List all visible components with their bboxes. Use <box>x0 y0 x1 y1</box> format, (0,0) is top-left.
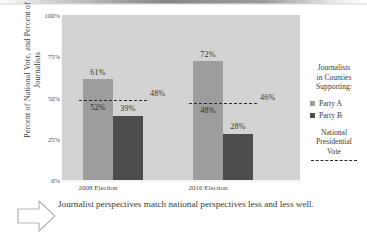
legend-reference-line-3: Vote <box>303 147 365 157</box>
plot-area: 61% 52% 48% 39% 72% 48% 46% 28% <box>62 15 300 180</box>
legend-item-party-b: Party B <box>303 111 365 120</box>
legend-items: Party A Party B <box>303 99 365 120</box>
national-vote-line-2016 <box>189 103 257 104</box>
y-tick-0: 0% <box>34 177 60 184</box>
national-vote-line-2008 <box>79 100 147 101</box>
label-2016-national-vote: 46% <box>260 93 275 102</box>
label-2016-party-a-inner: 48% <box>200 106 215 115</box>
y-tick-50: 50% <box>34 94 60 101</box>
y-tick-100: 100% <box>34 12 60 19</box>
legend-item-party-a: Party A <box>303 99 365 108</box>
legend-label-party-a: Party A <box>319 99 342 108</box>
scan-edge-artifact-secondary <box>0 3 367 5</box>
bar-2008-party-a <box>83 79 113 180</box>
label-2016-party-b-top: 28% <box>230 122 245 131</box>
label-2008-party-a-top: 61% <box>90 68 105 77</box>
bar-2016-party-a <box>193 61 223 180</box>
legend-label-party-b: Party B <box>319 111 342 120</box>
legend-title: Journalists in Counties Supporting: <box>303 63 365 92</box>
party-b-swatch-icon <box>310 113 315 118</box>
caption-area: Journalist perspectives match national p… <box>0 196 367 244</box>
bar-2016-party-b <box>223 134 253 180</box>
bar-chart-figure: Percent of National Vote, and Percent of… <box>0 8 367 193</box>
legend-title-line-2: in Counties <box>303 73 365 83</box>
label-2008-party-b-top: 39% <box>120 104 135 113</box>
plot-inner: 61% 52% 48% 39% 72% 48% 46% 28% <box>62 15 300 180</box>
legend-title-line-3: Supporting: <box>303 82 365 92</box>
x-axis-line <box>61 180 301 182</box>
legend-title-line-1: Journalists <box>303 63 365 73</box>
caption-text: Journalist perspectives match national p… <box>58 198 358 210</box>
legend-reference-group: National Presidential Vote <box>303 128 365 161</box>
label-2016-party-a-top: 72% <box>200 50 215 59</box>
bar-2008-party-b <box>113 116 143 180</box>
legend-dashed-line-icon <box>311 160 357 161</box>
label-2008-national-vote: 48% <box>150 89 165 98</box>
legend-reference-line-2: Presidential <box>303 137 365 147</box>
right-arrow-icon <box>17 199 57 233</box>
x-tick-2016-election: 2016 Election <box>188 184 227 192</box>
party-a-swatch-icon <box>310 101 315 106</box>
x-tick-2008-election: 2008 Election <box>78 184 117 192</box>
legend-reference-line-1: National <box>303 128 365 138</box>
y-tick-75: 75% <box>34 53 60 60</box>
chart-legend: Journalists in Counties Supporting: Part… <box>303 63 365 161</box>
y-tick-25: 25% <box>34 135 60 142</box>
label-2008-party-a-inner: 52% <box>90 103 105 112</box>
y-axis-tick-labels: 100% 75% 50% 25% 0% <box>30 15 60 180</box>
